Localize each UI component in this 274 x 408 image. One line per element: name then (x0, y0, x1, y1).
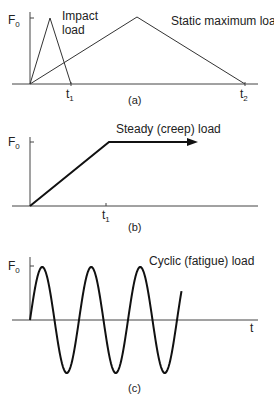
arrow-head-icon (187, 138, 198, 146)
cyclic-label: Cyclic (fatigue) load (149, 254, 254, 268)
load-types-diagram: F0 Impact load Static maximum load t1 t2… (0, 0, 274, 408)
caption-c: (c) (128, 382, 141, 394)
steady-label: Steady (creep) load (116, 122, 221, 136)
panel-c: F0 Cyclic (fatigue) load t (c) (8, 254, 258, 394)
t1-label-b: t1 (102, 208, 110, 224)
panel-a: F0 Impact load Static maximum load t1 t2… (8, 9, 274, 106)
t2-label-a: t2 (240, 87, 248, 103)
f0-label-a: F0 (8, 13, 20, 29)
impact-label-2: load (62, 23, 85, 37)
f0-label-b: F0 (8, 135, 20, 151)
panel-b: F0 Steady (creep) load t1 (b) (8, 122, 258, 233)
t1-label-a: t1 (66, 87, 74, 103)
steady-load-line (30, 142, 188, 206)
f0-label-c: F0 (8, 259, 20, 275)
caption-a: (a) (128, 94, 141, 106)
t-axis-label: t (250, 321, 254, 335)
static-label: Static maximum load (171, 14, 274, 28)
impact-label-1: Impact (62, 9, 99, 23)
caption-b: (b) (128, 221, 141, 233)
